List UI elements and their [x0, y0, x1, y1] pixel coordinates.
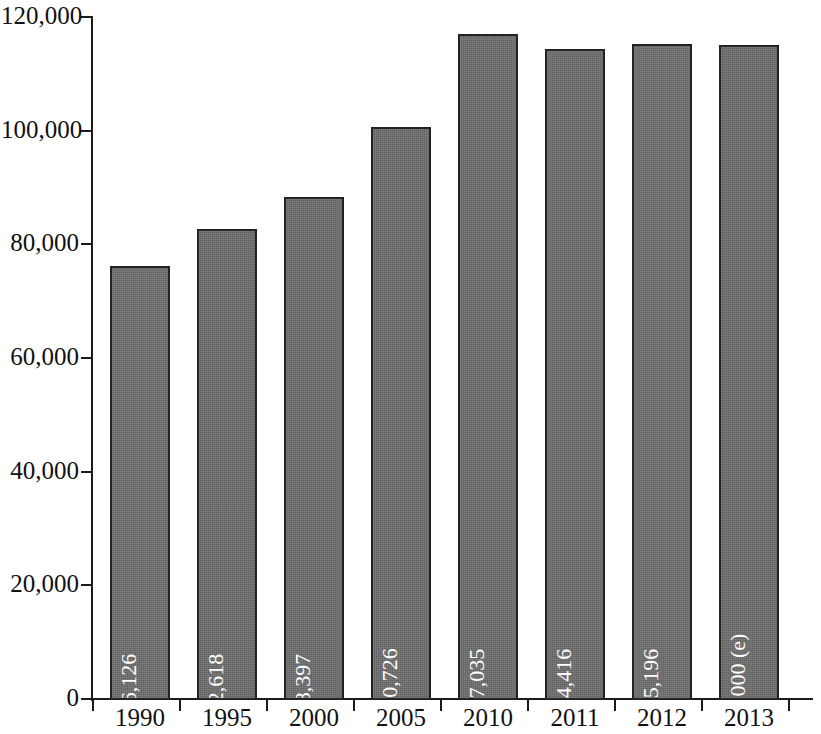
bar[interactable]: 115,196 [632, 44, 692, 700]
y-axis-tick [81, 357, 92, 359]
bar-value-label: 76,126 [118, 654, 140, 700]
y-axis-tick [81, 16, 92, 18]
bar[interactable]: 88,397 [284, 197, 344, 700]
x-axis-tick-label: 2000 [271, 703, 358, 733]
bar-value-label: 117,035 [466, 649, 488, 700]
bar-value-label: 115,196 [640, 649, 662, 700]
y-axis-tick-label-text: 20,000 [1, 571, 79, 596]
y-axis-tick-label-text: 100,000 [1, 117, 79, 142]
y-axis-tick-label: 80,000 [0, 230, 79, 255]
bar-value-label: 82,618 [205, 654, 227, 700]
y-axis-tick-label: 60,000 [0, 344, 79, 369]
y-axis-tick-label-text: 80,000 [1, 230, 79, 255]
y-axis-tick-label: 20,000 [0, 571, 79, 596]
bar-value-label: 115,000 (e) [727, 634, 749, 700]
x-axis-tick-label: 2005 [358, 703, 445, 733]
y-axis-tick-label-text: 40,000 [1, 458, 79, 483]
bar[interactable]: 76,126 [110, 266, 170, 700]
x-axis-tick-label: 1990 [97, 703, 184, 733]
y-axis-tick [81, 584, 92, 586]
x-axis-tick-label: 1995 [184, 703, 271, 733]
y-axis-tick-label: 100,000 [0, 117, 79, 142]
y-axis-tick-label-text: 0 [1, 685, 79, 710]
bar[interactable]: 115,000 (e) [719, 45, 779, 700]
y-axis-tick-label: 120,000 [0, 3, 79, 28]
y-axis-tick-label: 40,000 [0, 458, 79, 483]
bar[interactable]: 82,618 [197, 229, 257, 700]
bar[interactable]: 117,035 [458, 34, 518, 700]
x-axis-tick-label: 2013 [706, 703, 793, 733]
x-axis-tick-label: 2010 [445, 703, 532, 733]
bar[interactable]: 100,726 [371, 127, 431, 700]
y-axis-tick-label-text: 60,000 [1, 344, 79, 369]
y-axis-tick [81, 471, 92, 473]
y-axis-tick [81, 698, 92, 700]
bar-value-label: 100,726 [379, 648, 401, 700]
y-axis-tick-label: 0 [0, 685, 79, 710]
bar-chart: 020,00040,00060,00080,000100,000120,000 … [0, 0, 821, 734]
x-axis-tick-label: 2012 [619, 703, 706, 733]
x-axis-tick [92, 699, 94, 711]
y-axis-tick [81, 130, 92, 132]
y-axis-tick [81, 243, 92, 245]
y-axis-tick-label-text: 120,000 [1, 3, 79, 28]
bar[interactable]: 114,416 [545, 49, 605, 700]
x-axis-tick-label: 2011 [532, 703, 619, 733]
bar-value-label: 114,416 [553, 649, 575, 700]
bar-value-label: 88,397 [292, 654, 314, 700]
